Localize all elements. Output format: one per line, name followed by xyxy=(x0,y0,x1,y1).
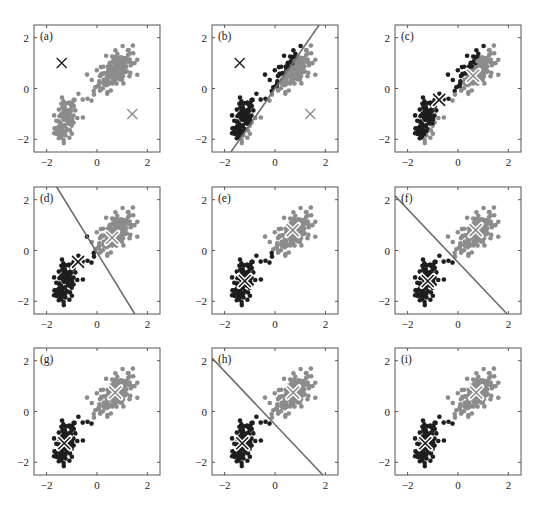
x-tick-label: −2 xyxy=(402,156,414,168)
y-tick-label: −2 xyxy=(378,456,390,468)
data-points xyxy=(52,43,140,145)
centroid-cross-icon xyxy=(127,109,137,119)
panel-f: −202−202(f) xyxy=(378,187,521,330)
y-tick-label: 0 xyxy=(24,83,30,95)
panel-e: −202−202(e) xyxy=(195,187,338,330)
y-tick-label: 2 xyxy=(202,32,208,44)
panel-label: (a) xyxy=(40,30,53,43)
y-tick-label: 0 xyxy=(385,406,391,418)
panel-label: (e) xyxy=(218,192,231,205)
y-tick-label: −2 xyxy=(378,295,390,307)
y-tick-label: 2 xyxy=(24,355,30,367)
x-tick-label: 2 xyxy=(323,479,329,491)
y-tick-label: 0 xyxy=(202,245,208,257)
y-tick-label: −2 xyxy=(195,295,207,307)
y-tick-label: 2 xyxy=(202,355,208,367)
data-points xyxy=(230,43,318,145)
panel-label: (c) xyxy=(401,30,414,43)
x-tick-label: 0 xyxy=(94,156,100,168)
x-tick-label: −2 xyxy=(219,479,231,491)
y-tick-label: 2 xyxy=(385,355,391,367)
y-tick-label: −2 xyxy=(17,133,29,145)
panel-label: (f) xyxy=(401,192,413,205)
x-tick-label: 0 xyxy=(94,318,100,330)
x-tick-label: −2 xyxy=(41,479,53,491)
figure-canvas: −202−202(a)−202−202(b)−202−202(c)−202−20… xyxy=(0,0,547,506)
x-tick-label: 2 xyxy=(145,479,151,491)
x-tick-label: −2 xyxy=(41,318,53,330)
x-tick-label: 0 xyxy=(272,318,278,330)
x-tick-label: −2 xyxy=(402,479,414,491)
centroid-cross-icon xyxy=(57,58,67,68)
y-tick-label: −2 xyxy=(17,295,29,307)
panel-label: (g) xyxy=(40,353,54,366)
y-tick-label: 2 xyxy=(202,194,208,206)
x-tick-label: −2 xyxy=(41,156,53,168)
y-tick-label: 0 xyxy=(385,83,391,95)
data-points xyxy=(52,366,140,468)
y-tick-label: −2 xyxy=(195,133,207,145)
x-tick-label: 2 xyxy=(145,318,151,330)
panel-d: −202−202(d) xyxy=(17,187,160,330)
data-points xyxy=(52,205,140,307)
decision-boundary-line xyxy=(231,25,319,152)
y-tick-label: −2 xyxy=(195,456,207,468)
y-tick-label: 0 xyxy=(24,406,30,418)
y-tick-label: −2 xyxy=(378,133,390,145)
x-tick-label: 2 xyxy=(506,318,512,330)
y-tick-label: 0 xyxy=(385,245,391,257)
data-points xyxy=(230,205,318,307)
y-tick-label: 2 xyxy=(385,32,391,44)
panel-c: −202−202(c) xyxy=(378,25,521,168)
panel-label: (d) xyxy=(40,192,54,205)
panel-i: −202−202(i) xyxy=(378,348,521,491)
centroid-cross-icon xyxy=(305,109,315,119)
data-points xyxy=(413,43,501,145)
x-tick-label: 2 xyxy=(506,479,512,491)
x-tick-label: −2 xyxy=(219,318,231,330)
centroid-cross-icon xyxy=(235,58,245,68)
y-tick-label: 2 xyxy=(24,32,30,44)
x-tick-label: 0 xyxy=(455,156,461,168)
y-tick-label: 0 xyxy=(202,406,208,418)
panel-a: −202−202(a) xyxy=(17,25,160,168)
panel-label: (h) xyxy=(218,353,232,366)
x-tick-label: 0 xyxy=(94,479,100,491)
y-tick-label: 2 xyxy=(24,194,30,206)
y-tick-label: −2 xyxy=(17,456,29,468)
y-tick-label: 0 xyxy=(202,83,208,95)
y-tick-label: 0 xyxy=(24,245,30,257)
x-tick-label: 2 xyxy=(323,318,329,330)
x-tick-label: 0 xyxy=(272,156,278,168)
panel-label: (b) xyxy=(218,30,232,43)
x-tick-label: −2 xyxy=(402,318,414,330)
x-tick-label: 2 xyxy=(145,156,151,168)
x-tick-label: 0 xyxy=(455,479,461,491)
kmeans-figure: −202−202(a)−202−202(b)−202−202(c)−202−20… xyxy=(0,0,547,506)
x-tick-label: 0 xyxy=(272,479,278,491)
x-tick-label: 2 xyxy=(323,156,329,168)
x-tick-label: 0 xyxy=(455,318,461,330)
x-tick-label: −2 xyxy=(219,156,231,168)
panel-g: −202−202(g) xyxy=(17,348,160,491)
panel-b: −202−202(b) xyxy=(195,25,338,168)
data-points xyxy=(230,366,318,468)
y-tick-label: 2 xyxy=(385,194,391,206)
x-tick-label: 2 xyxy=(506,156,512,168)
panel-h: −202−202(h) xyxy=(195,348,338,491)
data-points xyxy=(413,366,501,468)
panel-label: (i) xyxy=(401,353,412,366)
